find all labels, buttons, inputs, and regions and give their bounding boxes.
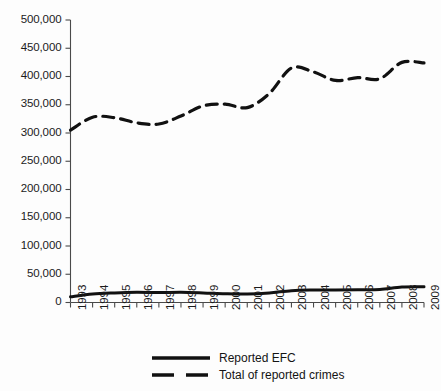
- x-axis-tick-label: 1993: [76, 284, 88, 309]
- legend-label-reported-efc: Reported EFC: [219, 351, 296, 365]
- y-axis-tick-label: 0: [55, 295, 61, 307]
- x-axis-tick-label: 2002: [274, 284, 286, 309]
- x-axis-tick-label: 1994: [98, 284, 110, 309]
- x-axis-tick-label: 2001: [252, 284, 264, 309]
- x-axis-tick-label: 2000: [230, 284, 242, 309]
- x-axis-tick-label: 2005: [341, 284, 353, 309]
- legend-label-total-reported-crimes: Total of reported crimes: [219, 368, 344, 382]
- x-axis-tick-label: 2008: [407, 284, 419, 309]
- series-line-total-of-reported-crimes: [71, 61, 425, 130]
- x-axis-tick-label: 2009: [429, 284, 441, 309]
- y-axis-tick-label: 200,000: [21, 182, 62, 194]
- x-axis-tick-label: 2007: [385, 284, 397, 309]
- axis-lines: [66, 20, 425, 308]
- x-axis-tick-label: 1996: [142, 284, 154, 309]
- y-axis-tick-label: 500,000: [21, 13, 62, 25]
- x-axis-tick-label: 1998: [186, 284, 198, 309]
- y-axis-tick-label: 250,000: [21, 154, 62, 166]
- y-axis-tick-label: 350,000: [21, 97, 62, 109]
- legend-item-total-reported-crimes: Total of reported crimes: [150, 366, 420, 383]
- y-axis-tick-label: 400,000: [21, 69, 62, 81]
- y-axis-tick-label: 150,000: [21, 210, 62, 222]
- x-axis-tick-label: 2003: [296, 284, 308, 309]
- legend-item-reported-efc: Reported EFC: [150, 349, 420, 366]
- legend-sample-dashed: [150, 369, 212, 381]
- y-axis-tick-label: 100,000: [21, 239, 62, 251]
- data-series-group: [71, 61, 425, 297]
- x-axis-tick-label: 1995: [120, 284, 132, 309]
- x-axis-tick-label: 1997: [164, 284, 176, 309]
- x-axis-tick-label: 1999: [208, 284, 220, 309]
- y-axis-tick-label: 450,000: [21, 41, 62, 53]
- x-axis-tick-label: 2006: [363, 284, 375, 309]
- chart-legend: Reported EFC Total of reported crimes: [150, 349, 420, 383]
- legend-sample-solid: [150, 352, 212, 364]
- y-axis-tick-label: 50,000: [27, 267, 62, 279]
- x-axis-tick-label: 2004: [319, 284, 331, 309]
- y-axis-tick-label: 300,000: [21, 126, 62, 138]
